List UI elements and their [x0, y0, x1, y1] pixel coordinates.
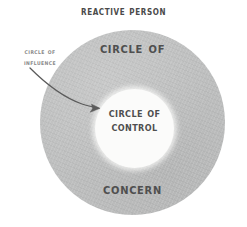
circle-of-influence-label-line1: Circle of — [9, 47, 71, 58]
circle-of-control-label-line1: Circle of — [95, 106, 174, 120]
circle-of-concern-label-bottom: Concern — [40, 180, 225, 199]
page-title: Reactive Person — [0, 4, 247, 18]
circle-of-control-label: Circle of Control — [95, 106, 174, 135]
diagram-canvas: Reactive Person Circle of Circle of Cont… — [0, 0, 247, 227]
circle-of-influence-callout: Circle of Influence — [9, 47, 71, 68]
circle-of-influence-label-line2: Influence — [9, 58, 71, 69]
circle-of-control-label-line2: Control — [95, 120, 174, 134]
